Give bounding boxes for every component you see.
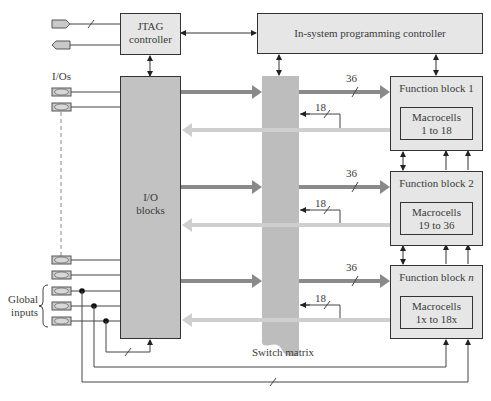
fbn-macro-label: Macrocells: [401, 300, 472, 313]
fb2-title: Function block 2: [391, 177, 482, 190]
switch-matrix: [262, 76, 299, 356]
fb1-title: Function block 1: [391, 82, 482, 95]
jtag-label-1: JTAG: [121, 20, 180, 33]
fbn-title-text: Function block: [399, 271, 468, 283]
io-blocks-label-2: blocks: [121, 204, 180, 217]
global-inputs-label-1: Global: [4, 293, 38, 306]
io-blocks-label-1: I/O: [121, 191, 180, 204]
global-inputs-label-2: inputs: [4, 306, 38, 319]
global-inputs-brace: [39, 285, 48, 327]
fb2-macro-label: Macrocells: [401, 206, 472, 219]
fbn-macro-range: 1x to 18x: [401, 313, 472, 326]
fb2-bus-in-width: 18: [315, 197, 326, 210]
fbn-title: Function block n: [391, 271, 482, 284]
fb2-macrocells: Macrocells 19 to 36: [400, 202, 473, 235]
fb1-macrocells: Macrocells 1 to 18: [400, 107, 473, 140]
jtag-label-2: controller: [121, 33, 180, 46]
fbn-bus-out-width: 36: [346, 261, 357, 274]
function-block-n: Function block n Macrocells 1x to 18x: [390, 265, 483, 339]
fb1-macro-label: Macrocells: [401, 111, 472, 124]
function-block-1: Function block 1 Macrocells 1 to 18: [390, 76, 483, 151]
fb1-macro-range: 1 to 18: [401, 124, 472, 137]
fb1-bus-out-width: 36: [346, 72, 357, 85]
fbn-bus-in-width: 18: [315, 292, 326, 305]
jtag-input-pad: [52, 20, 120, 28]
fb2-macro-range: 19 to 36: [401, 219, 472, 232]
fbn-macrocells: Macrocells 1x to 18x: [400, 296, 473, 329]
io-blocks: I/O blocks: [120, 76, 181, 339]
io-pads: [52, 88, 120, 325]
switch-matrix-label: Switch matrix: [252, 346, 314, 359]
fbn-title-n: n: [468, 271, 474, 283]
jtag-controller: JTAG controller: [120, 13, 181, 55]
isp-label: In-system programming controller: [258, 27, 482, 40]
function-block-2: Function block 2 Macrocells 19 to 36: [390, 171, 483, 246]
fb1-bus-in-width: 18: [315, 101, 326, 114]
fb2-bus-out-width: 36: [346, 167, 357, 180]
jtag-output-pad: [52, 41, 120, 49]
io-label: I/Os: [52, 70, 71, 83]
isp-controller: In-system programming controller: [257, 13, 483, 54]
